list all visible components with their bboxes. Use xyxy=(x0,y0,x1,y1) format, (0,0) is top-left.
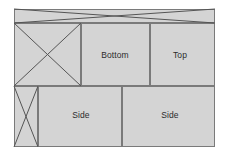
panel-top-panel xyxy=(151,24,215,86)
box-net-svg xyxy=(0,0,229,157)
panel-side-panel-right xyxy=(123,87,215,147)
box-net-diagram: BottomTopSideSide xyxy=(0,0,229,157)
panel-shapes-group xyxy=(15,10,215,147)
panel-bottom-panel xyxy=(82,24,150,86)
panel-side-panel-left xyxy=(39,87,122,147)
